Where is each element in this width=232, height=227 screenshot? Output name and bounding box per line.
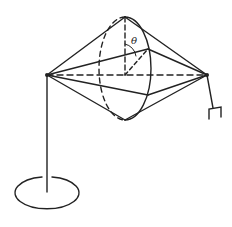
rod-right-lower — [148, 75, 207, 95]
double-cone-diagram — [0, 0, 232, 227]
rod-left-upper — [47, 49, 148, 75]
rod-right-upper — [148, 49, 207, 75]
hanging-weight — [209, 107, 221, 119]
circle-back-arc — [99, 17, 125, 120]
right-pivot — [205, 73, 209, 77]
angle-label-theta: θ — [131, 35, 137, 46]
rod-left-lower — [47, 75, 148, 95]
left-pivot — [45, 73, 49, 77]
hanging-string — [207, 75, 213, 108]
cone-edge-right-top — [125, 17, 207, 75]
cone-edge-left-bottom — [47, 75, 125, 120]
radius-to-rod — [125, 49, 148, 75]
diagram-canvas: θ — [0, 0, 232, 227]
cone-edge-left-top — [47, 17, 125, 75]
